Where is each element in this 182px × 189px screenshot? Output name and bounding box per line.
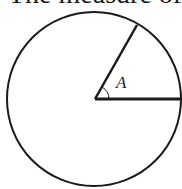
- angle-arc: [102, 87, 109, 99]
- angle-label: A: [115, 73, 127, 92]
- circle-diagram: A: [0, 0, 182, 189]
